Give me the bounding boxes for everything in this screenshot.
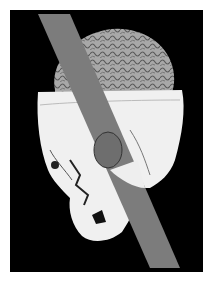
photo-frame — [10, 10, 203, 272]
eye-socket — [94, 132, 122, 168]
skull-rod-render — [10, 10, 203, 272]
